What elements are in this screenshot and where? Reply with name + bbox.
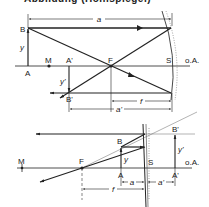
ray-reflected-through-f-2 bbox=[40, 147, 145, 182]
label-m: M bbox=[45, 56, 52, 65]
label-a-point-2: A bbox=[118, 171, 124, 180]
label-s: S bbox=[166, 56, 171, 65]
label-a-prime: a' bbox=[116, 105, 122, 114]
bottom-diagram: a a' f M F B y A S B' y' A' o.A. bbox=[17, 112, 199, 207]
label-a-prime-point-2: A' bbox=[172, 171, 179, 180]
label-b-prime: B' bbox=[66, 95, 73, 104]
label-a-prime-point: A' bbox=[66, 56, 73, 65]
ray-reflected-through-f bbox=[60, 28, 171, 98]
label-a: a bbox=[97, 15, 102, 24]
label-f-point-2: F bbox=[79, 157, 84, 166]
point-m-2 bbox=[21, 167, 24, 170]
label-m-2: M bbox=[18, 157, 25, 166]
ray-b-to-mirror-high bbox=[121, 134, 145, 147]
label-b-2: B bbox=[117, 137, 122, 146]
label-y: y bbox=[19, 43, 25, 52]
point-f-2 bbox=[80, 166, 83, 169]
label-y-2: y bbox=[123, 155, 129, 164]
label-b: B bbox=[20, 25, 25, 34]
top-diagram: a f a' B y A M A' y' B' F bbox=[15, 11, 199, 114]
virtual-ray-1 bbox=[82, 112, 197, 168]
label-f-point: F bbox=[108, 56, 113, 65]
label-y-prime: y' bbox=[59, 77, 66, 86]
label-a-prime-2: a' bbox=[158, 178, 164, 187]
label-s-2: S bbox=[148, 158, 153, 167]
optics-diagram: a f a' B y A M A' y' B' F bbox=[0, 0, 209, 207]
label-optical-axis-2: o.A. bbox=[185, 158, 199, 167]
label-a-point: A bbox=[25, 69, 31, 78]
mirror-2 bbox=[143, 124, 146, 207]
label-optical-axis: o.A. bbox=[185, 56, 199, 65]
label-a-2: a bbox=[130, 178, 135, 187]
label-b-prime-2: B' bbox=[172, 125, 179, 134]
label-y-prime-2: y' bbox=[177, 145, 184, 154]
